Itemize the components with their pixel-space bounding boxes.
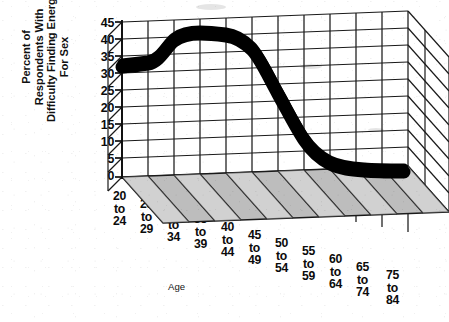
scan-artifact bbox=[300, 64, 322, 69]
scan-artifact bbox=[368, 128, 384, 132]
scan-artifact bbox=[196, 4, 226, 10]
back-wall-horizontals bbox=[122, 11, 408, 177]
plot-area bbox=[0, 0, 449, 322]
chart-figure: Percent of Respondents With Difficulty F… bbox=[0, 0, 449, 322]
